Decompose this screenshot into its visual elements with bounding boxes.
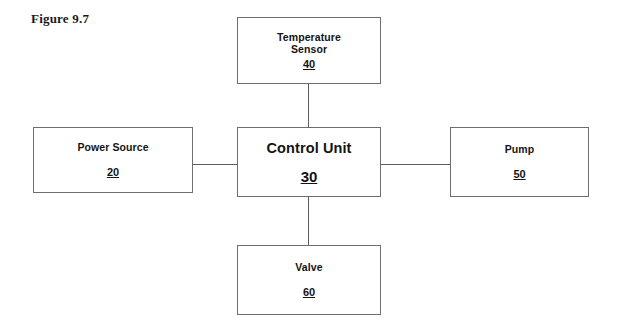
connector-temperature-sensor-to-control-unit	[308, 83, 309, 128]
node-numeral-power-source: 20	[107, 166, 119, 179]
node-label-power-source: Power Source	[77, 141, 148, 154]
connector-control-unit-to-pump	[380, 164, 451, 165]
node-label-temperature-sensor: Temperature Sensor	[277, 31, 341, 56]
node-label-pump: Pump	[505, 143, 535, 156]
node-label-control-unit: Control Unit	[267, 140, 352, 157]
node-label-valve: Valve	[295, 261, 322, 274]
node-numeral-temperature-sensor: 40	[303, 58, 315, 71]
figure-caption: Figure 9.7	[31, 11, 89, 27]
figure-page: Figure 9.7 Temperature Sensor 40 Power S…	[0, 0, 623, 329]
node-numeral-valve: 60	[303, 286, 315, 299]
diagram-node-valve: Valve 60	[237, 245, 381, 315]
node-numeral-control-unit: 30	[301, 168, 318, 185]
connector-power-source-to-control-unit	[192, 164, 238, 165]
connector-control-unit-to-valve	[308, 196, 309, 246]
diagram-node-control-unit: Control Unit 30	[237, 127, 381, 197]
diagram-node-power-source: Power Source 20	[33, 127, 193, 193]
diagram-node-temperature-sensor: Temperature Sensor 40	[237, 17, 381, 84]
node-numeral-pump: 50	[513, 168, 525, 181]
diagram-node-pump: Pump 50	[450, 127, 589, 197]
